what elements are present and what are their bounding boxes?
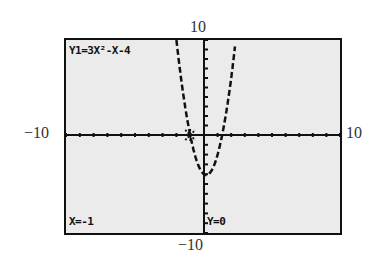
- ymin-label: −10: [178, 237, 203, 253]
- graph-plot: [66, 40, 340, 233]
- trace-y-value: Y=0: [207, 216, 225, 227]
- xmin-label: −10: [24, 125, 49, 141]
- calculator-graph-screen: Y1=3X²-X-4 X=-1 Y=0: [64, 38, 342, 235]
- xmax-label: 10: [346, 125, 362, 141]
- equation-label: Y1=3X²-X-4: [69, 45, 130, 56]
- ymax-label: 10: [190, 19, 206, 35]
- trace-x-value: X=-1: [69, 216, 94, 227]
